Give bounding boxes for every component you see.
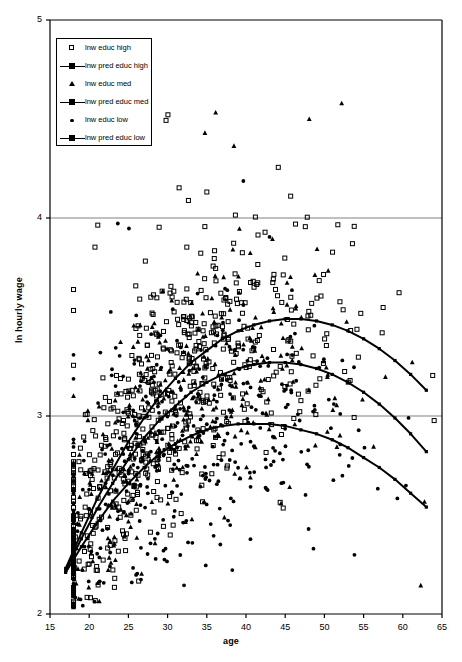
open-square-icon [69,45,74,50]
y-tick-label: 3 [14,410,42,420]
x-tick-label: 60 [388,622,418,632]
legend-item-label: lnw educ low [85,116,128,124]
x-axis-title: age [0,636,462,646]
legend-key [59,93,85,111]
legend-item-label: lnw pred educ high [85,62,148,70]
y-tick-label: 5 [14,14,42,24]
line-marker-icon [60,138,85,140]
x-tick-label: 55 [349,622,379,632]
legend-key [59,75,85,93]
x-tick-label: 25 [113,622,143,632]
x-tick-label: 40 [231,622,261,632]
legend-item: lnw pred educ high [57,57,151,75]
legend-item: lnw pred educ med [57,93,151,111]
x-tick-label: 35 [192,622,222,632]
scatter-points [71,101,436,610]
legend-item: lnw pred educ low [57,129,151,147]
scatter-plot-figure: 2345 1520253035404550556065 age ln hourl… [0,0,462,662]
legend-key [59,39,85,57]
x-tick-label: 15 [35,622,65,632]
x-tick-label: 20 [74,622,104,632]
legend-item: lnw educ high [57,39,151,57]
legend-item: lnw educ low [57,111,151,129]
y-tick-label: 4 [14,212,42,222]
triangle-icon [69,81,75,86]
legend-item-label: lnw educ high [85,44,131,52]
legend-item-label: lnw pred educ low [85,134,145,142]
legend-key [59,111,85,129]
legend-item-label: lnw educ med [85,80,131,88]
x-tick-label: 30 [153,622,183,632]
x-tick-label: 65 [427,622,457,632]
legend-item: lnw educ med [57,75,151,93]
gridlines [50,218,442,416]
chart-legend: lnw educ highlnw pred educ highlnw educ … [56,38,152,146]
line-marker-icon [60,66,85,68]
x-tick-label: 50 [309,622,339,632]
x-tick-label: 45 [270,622,300,632]
y-tick-label: 2 [14,608,42,618]
legend-item-label: lnw pred educ med [85,98,148,106]
legend-key [59,129,85,147]
legend-key [59,57,85,75]
y-axis-title: ln hourly wage [14,250,24,370]
line-marker-icon [60,102,85,104]
circle-icon [70,119,74,123]
